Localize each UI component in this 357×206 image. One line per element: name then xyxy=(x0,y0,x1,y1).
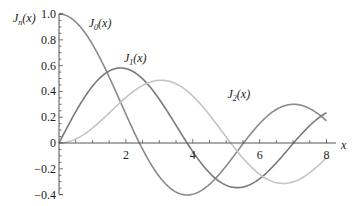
bessel-chart: 1.00.80.60.40.20−0.2−0.42468xJn(x)J0(x)J… xyxy=(0,0,357,206)
annotation-j0x: J0(x) xyxy=(89,16,112,32)
y-tick-label: −0.4 xyxy=(34,188,56,202)
x-tick-label: 8 xyxy=(324,148,330,162)
x-tick-label: 6 xyxy=(257,148,263,162)
y-tick-label: 0.6 xyxy=(41,59,56,73)
curves xyxy=(59,14,327,195)
curve-j2x xyxy=(59,80,327,183)
y-tick-label: 0.4 xyxy=(41,84,56,98)
y-tick-label: 0.8 xyxy=(41,33,56,47)
x-tick-label: 4 xyxy=(190,148,196,162)
annotation-j1x: J1(x) xyxy=(124,51,147,67)
y-tick-label: −0.2 xyxy=(34,162,56,176)
y-tick-label: 1.0 xyxy=(41,7,56,21)
annotation-j2x: J2(x) xyxy=(228,87,251,103)
curve-j0x xyxy=(59,14,327,195)
y-axis-title: Jn(x) xyxy=(13,11,36,27)
y-tick-label: 0.2 xyxy=(41,110,56,124)
x-axis-title: x xyxy=(340,138,347,152)
x-tick-label: 2 xyxy=(123,148,129,162)
y-tick-label: 0 xyxy=(50,136,56,150)
curve-j1x xyxy=(59,68,327,188)
